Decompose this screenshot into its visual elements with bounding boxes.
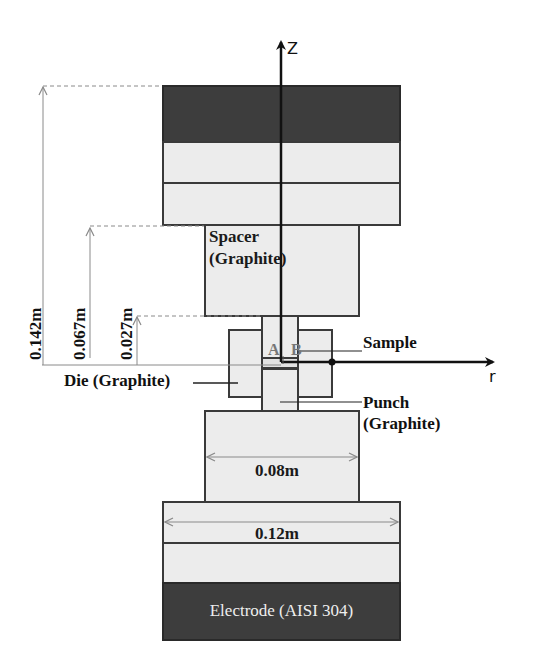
height-spacer-label: 0.067m	[70, 308, 90, 360]
die-label: Die (Graphite)	[64, 371, 170, 391]
z-axis-label: Z	[287, 39, 298, 58]
width-base-label: 0.12m	[255, 524, 299, 544]
height-total-label: 0.142m	[26, 308, 46, 360]
dimension-0-142m	[43, 86, 162, 365]
punch-label-line1: Punch	[363, 393, 409, 413]
point-a-label: A	[268, 341, 280, 359]
height-punch-label: 0.027m	[117, 308, 137, 360]
electrode-label: Electrode (AISI 304)	[162, 601, 401, 621]
r-axis-label: r	[489, 367, 496, 386]
r-axis	[281, 359, 493, 366]
sample-label: Sample	[363, 333, 417, 353]
point-b-label: B	[291, 341, 302, 359]
width-spacer-label: 0.08m	[255, 461, 299, 481]
spacer-label-line2: (Graphite)	[209, 249, 286, 269]
punch-label-line2: (Graphite)	[363, 414, 440, 434]
dimension-0-027m	[137, 316, 261, 365]
spacer-label-line1: Spacer	[209, 227, 259, 247]
dimension-0-067m	[90, 226, 204, 358]
